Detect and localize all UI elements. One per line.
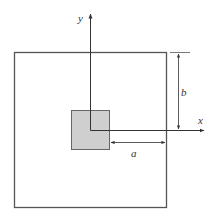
b-dimension-label: b [181, 86, 187, 98]
diagram-canvas: y x b a [0, 0, 212, 220]
x-axis-label: x [197, 114, 203, 126]
y-axis-label: y [77, 12, 83, 24]
a-dimension-label: a [131, 147, 137, 159]
